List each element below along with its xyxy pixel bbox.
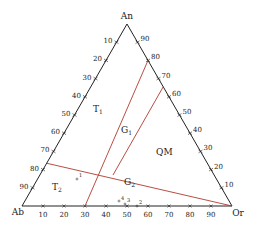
right-tick-label: 80 [151,53,160,61]
left-tick-label: 50 [62,110,71,118]
right-tick-mark [209,168,213,171]
right-tick-label: 60 [172,90,181,98]
left-tick-label: 30 [83,74,92,82]
right-tick-mark [167,95,171,98]
left-tick-label: 90 [20,183,29,191]
sample-point-3-label: 3 [127,197,130,203]
right-tick-mark [220,186,224,189]
right-tick-label: 70 [162,72,171,80]
bottom-tick-label: 90 [207,211,216,219]
left-tick-label: 70 [41,146,50,154]
left-tick-mark [41,168,45,171]
left-tick-mark [62,132,66,135]
left-tick-mark [94,77,98,80]
left-tick-mark [73,114,77,117]
field-boundaries [47,60,232,207]
field-g1-label: G1 [121,125,132,136]
right-tick-mark [157,77,161,80]
left-tick-label: 80 [30,165,39,173]
bottom-tick-label: 40 [102,211,111,219]
field-t1-label: T1 [93,104,103,115]
left-tick-mark [115,41,119,44]
field-g2-label: G2 [124,177,135,188]
left-tick-mark [31,186,35,189]
right-tick-mark [136,41,140,44]
left-tick-label: 10 [104,37,113,45]
left-tick-mark [104,59,108,62]
right-tick-label: 90 [141,35,150,43]
vertex-ab-label: Ab [11,207,24,217]
left-tick-label: 40 [72,92,81,100]
field-qm-label: QM [156,147,173,157]
field-t2-label: T2 [52,182,62,193]
bottom-tick-label: 70 [165,211,174,219]
bottom-tick-label: 30 [81,211,90,219]
right-tick-label: 20 [214,163,223,171]
left-tick-label: 20 [93,55,102,63]
left-tick-label: 60 [51,128,60,136]
right-tick-mark [188,132,192,135]
bottom-tick-label: 20 [60,211,69,219]
right-tick-mark [178,114,182,117]
bottom-tick-label: 10 [39,211,48,219]
ternary-diagram: 1010102020203030304040405050506060607070… [0,0,256,232]
bottom-tick-label: 60 [144,211,153,219]
sample-point-2-label: 2 [139,199,142,205]
bottom-tick-label: 50 [123,211,132,219]
right-tick-label: 40 [193,126,202,134]
left-tick-mark [52,150,56,153]
sample-point-4-label: 4 [121,195,124,201]
vertex-an-label: An [120,11,133,21]
left-tick-mark [83,95,87,98]
vertex-or-label: Or [232,208,244,218]
bottom-tick-label: 80 [186,211,195,219]
right-tick-label: 30 [204,144,213,152]
right-tick-label: 10 [225,181,234,189]
right-tick-mark [199,150,203,153]
right-tick-label: 50 [183,108,192,116]
sample-point-1-label: 1 [79,172,82,178]
